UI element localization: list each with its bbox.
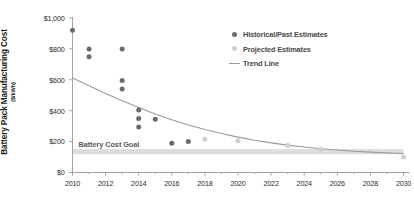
legend-marker-dot	[232, 32, 237, 37]
x-axis-tick-label: 2026	[322, 179, 352, 188]
historical-data-point	[136, 124, 141, 129]
legend-item-label: Projected Estimates	[243, 45, 311, 54]
x-axis-tick-label: 2014	[124, 179, 154, 188]
legend-marker-line	[229, 63, 240, 64]
y-axis-tick-label: $600	[21, 76, 65, 85]
x-axis-tick-label: 2018	[190, 179, 220, 188]
x-axis-tick-label: 2020	[223, 179, 253, 188]
battery-cost-goal-label: Battery Cost Goal	[79, 140, 140, 149]
x-axis-tick-label: 2012	[91, 179, 121, 188]
historical-data-point	[87, 54, 92, 59]
projected-data-point	[202, 137, 207, 142]
y-axis-tick-label: $1,000	[21, 14, 65, 23]
x-axis-tick-label: 2016	[157, 179, 187, 188]
x-axis-tick-label: 2010	[58, 179, 88, 188]
x-axis-tick-label: 2022	[256, 179, 286, 188]
y-axis-tick-label: $200	[21, 137, 65, 146]
legend-item-label: Trend Line	[243, 59, 279, 68]
historical-data-point	[70, 28, 75, 33]
historical-data-point	[136, 107, 141, 112]
projected-data-point	[318, 147, 323, 152]
projected-data-point	[401, 155, 406, 160]
legend-item-label: Historical/Past Estimates	[243, 30, 328, 39]
historical-data-point	[169, 141, 174, 146]
y-axis-tick-label: $800	[21, 45, 65, 54]
y-axis-tick-label: $0	[21, 168, 65, 177]
historical-data-point	[186, 139, 191, 144]
historical-data-point	[120, 78, 125, 83]
historical-data-point	[87, 46, 92, 51]
x-axis-tick-label: 2028	[355, 179, 385, 188]
chart-canvas: Battery Pack Manufacturing Cost ($/kWh) …	[0, 0, 414, 206]
legend-marker-dot	[232, 46, 237, 51]
historical-data-point	[120, 87, 125, 92]
y-axis-tick-label: $400	[21, 107, 65, 116]
x-axis-tick-label: 2030	[389, 179, 414, 188]
historical-data-point	[120, 46, 125, 51]
historical-data-point	[136, 116, 141, 121]
projected-data-point	[236, 138, 241, 143]
historical-data-point	[153, 117, 158, 122]
x-axis-tick-label: 2024	[289, 179, 319, 188]
projected-data-point	[285, 143, 290, 148]
